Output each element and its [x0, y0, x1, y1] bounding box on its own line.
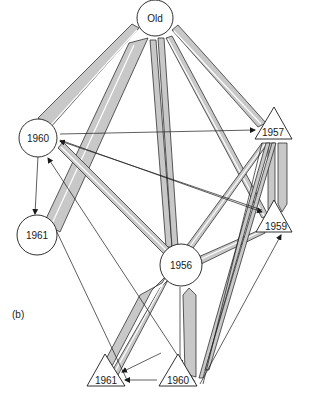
- node-label: 1961: [95, 375, 118, 386]
- arrow-1961-to-1961t: [56, 230, 127, 380]
- node-label: 1957: [262, 127, 285, 138]
- arrow-1960t-to-1957: [203, 143, 262, 384]
- node-label: 1959: [265, 221, 288, 232]
- band-1956-to-1959: [196, 228, 265, 265]
- band-1956-to-1960t: [183, 288, 196, 377]
- arrow-1960-to-1961: [35, 156, 38, 214]
- band-1957-to-1960t: [199, 143, 270, 378]
- node-1956-circle: 1956: [160, 244, 202, 286]
- node-label: 1960: [27, 133, 50, 144]
- node-label: 1960: [167, 375, 190, 386]
- node-1961-circle: 1961: [17, 215, 57, 255]
- band-1957-to-1959-b: [278, 143, 287, 212]
- flow-diagram: Old 1960 1961 1956 1957 1959 1961 1960 (…: [0, 0, 310, 409]
- flow-bands: [38, 24, 287, 385]
- panel-label: (b): [12, 309, 24, 320]
- node-label: 1961: [26, 230, 49, 241]
- node-label: 1956: [170, 260, 193, 271]
- node-1960-circle: 1960: [19, 119, 57, 157]
- node-old: Old: [137, 0, 173, 36]
- node-label: Old: [147, 13, 163, 24]
